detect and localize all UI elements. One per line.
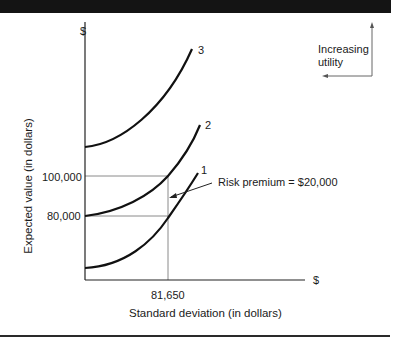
curve-label-3: 3 [198,44,204,56]
curve-label-2: 2 [205,119,211,131]
risk-premium-label: Risk premium = $20,000 [218,176,338,188]
arrowhead-icon [169,193,177,198]
x-axis-title: Standard deviation (in dollars) [129,307,282,319]
arrow-up-icon [370,22,374,28]
utility-label-line1: Increasing [318,43,369,55]
arrow-left-icon [322,74,328,78]
utility-label-line2: utility [318,56,343,68]
y-axis-title: Expected value (in dollars) [22,118,34,254]
indifference-curve-1 [85,173,198,268]
x-tick-81650: 81,650 [151,289,185,301]
indifference-curve-3 [85,49,192,147]
y-axis-symbol: $ [80,25,86,37]
y-tick-80000: 80,000 [47,210,81,222]
x-axis-symbol: $ [313,274,319,286]
indifference-curve-2 [85,125,200,216]
y-tick-100000: 100,000 [42,171,82,183]
bottom-border-rule [0,335,390,337]
curve-label-1: 1 [201,164,207,176]
